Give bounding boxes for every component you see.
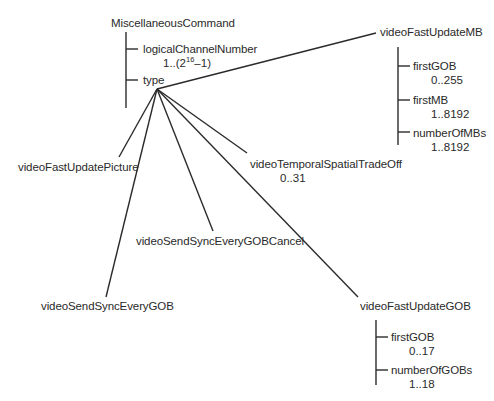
node-videoFastUpdatePicture: videoFastUpdatePicture bbox=[18, 161, 139, 174]
range-logicalChannelNumber: 1..(216–1) bbox=[163, 57, 211, 70]
node-videoSendSyncEveryGOBCancel: videoSendSyncEveryGOBCancel bbox=[136, 235, 304, 248]
field-gob-numberOfGOBs: numberOfGOBs bbox=[391, 364, 472, 377]
field-mb-firstMB: firstMB bbox=[413, 94, 448, 107]
edge-videoFastUpdatePicture bbox=[119, 89, 157, 157]
range-videoTemporalSpatialTradeOff: 0..31 bbox=[280, 172, 306, 185]
range-gob-numberOfGOBs: 1..18 bbox=[409, 378, 435, 391]
field-logicalChannelNumber: logicalChannelNumber bbox=[143, 43, 257, 56]
node-videoFastUpdateMB: videoFastUpdateMB bbox=[380, 26, 483, 39]
edge-videoSendSyncEveryGOBCancel bbox=[157, 89, 213, 231]
range-mb-numberOfMBs: 1..8192 bbox=[431, 141, 469, 154]
edge-videoFastUpdateGOB bbox=[157, 89, 358, 297]
field-gob-firstGOB: firstGOB bbox=[391, 331, 434, 344]
field-mb-firstGOB: firstGOB bbox=[413, 60, 456, 73]
field-mb-numberOfMBs: numberOfMBs bbox=[413, 127, 486, 140]
edge-videoTemporalSpatialTradeOff bbox=[157, 89, 247, 153]
field-type: type bbox=[143, 74, 164, 87]
node-videoTemporalSpatialTradeOff: videoTemporalSpatialTradeOff bbox=[250, 158, 402, 171]
range-mb-firstMB: 1..8192 bbox=[431, 108, 469, 121]
range-gob-firstGOB: 0..17 bbox=[409, 345, 435, 358]
edge-videoSendSyncEveryGOB bbox=[106, 89, 157, 297]
node-videoFastUpdateGOB: videoFastUpdateGOB bbox=[360, 300, 471, 313]
node-videoSendSyncEveryGOB: videoSendSyncEveryGOB bbox=[41, 300, 174, 313]
range-mb-firstGOB: 0..255 bbox=[431, 74, 463, 87]
root-node-label: MiscellaneousCommand bbox=[111, 17, 235, 30]
